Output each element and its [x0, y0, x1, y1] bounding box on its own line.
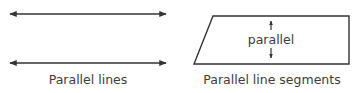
parallel-annotation: parallel — [248, 32, 295, 47]
caption-parallel-lines: Parallel lines — [49, 72, 128, 87]
caption-parallel-line-segments: Parallel line segments — [203, 72, 340, 87]
parallel-lines-figure — [10, 14, 166, 63]
